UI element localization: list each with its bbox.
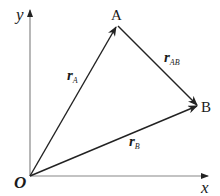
point-a-label: A [111, 7, 122, 23]
vector-r-ab-label: rAB [164, 49, 180, 67]
vector-r-ab [118, 26, 197, 105]
vector-r-b-label: rB [129, 133, 140, 151]
vector-diagram: y x O A B rA rB rAB [0, 0, 220, 196]
vector-r-b [30, 106, 197, 176]
point-b-label: B [201, 99, 211, 115]
y-axis-label: y [14, 5, 24, 24]
vector-r-a [30, 27, 116, 176]
x-axis-label: x [200, 178, 209, 196]
vector-r-a-label: rA [67, 67, 78, 85]
origin-label: O [14, 173, 26, 192]
